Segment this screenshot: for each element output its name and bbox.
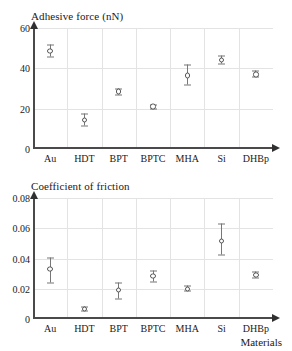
gridline-horizontal — [33, 259, 273, 260]
gridline-vertical — [67, 198, 68, 319]
x-axis-tick-label: Au — [44, 323, 56, 334]
y-axis-tick-label: 40 — [20, 63, 30, 74]
data-point — [181, 75, 193, 76]
data-point — [181, 288, 193, 289]
data-point — [250, 74, 262, 75]
gridline-horizontal — [33, 198, 273, 199]
data-point — [44, 269, 56, 270]
gridline-horizontal — [33, 228, 273, 229]
x-axis-tick-label: BPT — [110, 323, 128, 334]
data-point — [113, 290, 125, 291]
data-point — [44, 51, 56, 52]
gridline-vertical — [67, 28, 68, 149]
gridline-vertical — [170, 198, 171, 319]
gridline-vertical — [136, 28, 137, 149]
figure-container: Adhesive force (nN) 0204060AuHDTBPTBPTCM… — [0, 0, 292, 351]
data-point — [216, 60, 228, 61]
error-bar-cap-top — [184, 65, 191, 66]
data-point — [250, 275, 262, 276]
gridline-vertical — [102, 28, 103, 149]
error-bar-cap-top — [218, 224, 225, 225]
error-bar-cap-bottom — [184, 85, 191, 86]
error-bar-cap-bottom — [218, 64, 225, 65]
data-point — [147, 275, 159, 276]
data-point-marker — [116, 288, 121, 293]
error-bar-cap-bottom — [218, 255, 225, 256]
error-bar-cap-bottom — [115, 299, 122, 300]
error-bar-cap-bottom — [252, 278, 259, 279]
data-point — [147, 106, 159, 107]
y-axis-arrow-icon — [30, 191, 38, 199]
x-axis-line — [33, 147, 273, 149]
friction-coefficient-axis-title: Coefficient of friction — [31, 180, 130, 192]
y-axis-tick-label: 60 — [20, 23, 30, 34]
adhesive-force-plot-area — [33, 28, 273, 149]
x-axis-tick-label: Si — [217, 323, 225, 334]
friction-coefficient-plot-area — [33, 198, 273, 319]
data-point-marker — [219, 238, 224, 243]
error-bar-cap-top — [150, 270, 157, 271]
error-bar-cap-bottom — [115, 94, 122, 95]
y-axis-tick-label: 0 — [25, 144, 30, 155]
gridline-horizontal — [33, 289, 273, 290]
x-axis-tick-label: MHA — [176, 153, 199, 164]
gridline-vertical — [102, 198, 103, 319]
adhesive-force-panel: Adhesive force (nN) 0204060AuHDTBPTBPTCM… — [0, 0, 292, 176]
data-point-marker — [150, 104, 155, 109]
y-axis-tick-label: 0.04 — [13, 253, 31, 264]
gridline-horizontal — [33, 68, 273, 69]
x-axis-arrow-icon — [272, 314, 280, 322]
data-point — [216, 241, 228, 242]
y-axis-tick-label: 20 — [20, 103, 30, 114]
data-point-marker — [219, 58, 224, 63]
error-bar-cap-bottom — [150, 281, 157, 282]
error-bar-cap-top — [47, 45, 54, 46]
data-point-marker — [47, 266, 52, 271]
data-point-marker — [253, 72, 258, 77]
x-axis-tick-label: HDT — [74, 153, 95, 164]
x-axis-tick-label: MHA — [176, 323, 199, 334]
data-point-marker — [185, 286, 190, 291]
data-point-marker — [47, 49, 52, 54]
gridline-vertical — [204, 28, 205, 149]
y-axis-tick-label: 0.06 — [13, 223, 31, 234]
adhesive-force-axis-title: Adhesive force (nN) — [31, 10, 123, 22]
data-point — [78, 309, 90, 310]
y-axis-tick-label: 0.02 — [13, 283, 31, 294]
y-axis-tick-label: 0.08 — [13, 193, 31, 204]
y-axis-arrow-icon — [30, 21, 38, 29]
gridline-horizontal — [33, 28, 273, 29]
x-axis-title: Materials — [240, 336, 282, 348]
x-axis-line — [33, 317, 273, 319]
data-point-marker — [116, 89, 121, 94]
data-point-marker — [82, 306, 87, 311]
x-axis-tick-label: HDT — [74, 323, 95, 334]
gridline-vertical — [170, 28, 171, 149]
x-axis-arrow-icon — [272, 144, 280, 152]
data-point-marker — [82, 117, 87, 122]
gridline-vertical — [136, 198, 137, 319]
error-bar-cap-bottom — [47, 283, 54, 284]
x-axis-tick-label: DHBp — [243, 323, 269, 334]
error-bar-cap-top — [47, 257, 54, 258]
error-bar-cap-bottom — [252, 77, 259, 78]
gridline-vertical — [239, 28, 240, 149]
y-axis-line — [33, 28, 35, 149]
error-bar-cap-top — [115, 282, 122, 283]
x-axis-tick-label: DHBp — [243, 153, 269, 164]
error-bar-cap-bottom — [81, 125, 88, 126]
data-point-marker — [253, 272, 258, 277]
gridline-vertical — [239, 198, 240, 319]
error-bar-cap-top — [218, 56, 225, 57]
x-axis-tick-label: Au — [44, 153, 56, 164]
x-axis-tick-label: Si — [217, 153, 225, 164]
data-point — [113, 91, 125, 92]
x-axis-tick-label: BPT — [110, 153, 128, 164]
gridline-vertical — [204, 198, 205, 319]
x-axis-tick-label: BPTC — [140, 153, 165, 164]
data-point-marker — [185, 73, 190, 78]
data-point — [78, 119, 90, 120]
friction-coefficient-panel: Coefficient of friction Materials 00.020… — [0, 176, 292, 351]
error-bar-cap-top — [81, 113, 88, 114]
y-axis-line — [33, 198, 35, 319]
